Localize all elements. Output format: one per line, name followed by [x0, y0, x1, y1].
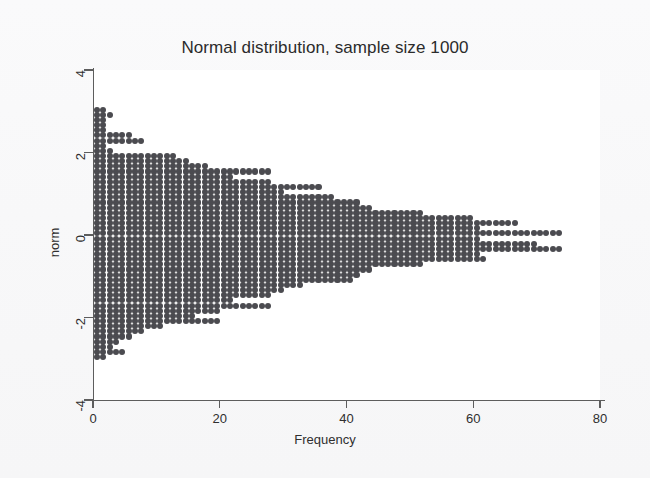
- data-dot: [531, 230, 537, 236]
- data-dot: [240, 292, 246, 298]
- dot-density-series: [93, 70, 600, 400]
- data-dot: [119, 138, 125, 144]
- dot-row: [94, 354, 106, 360]
- data-dot: [138, 138, 144, 144]
- data-dot: [259, 292, 265, 298]
- data-dot: [499, 246, 505, 252]
- data-dot: [246, 168, 252, 174]
- x-tick-label: 40: [339, 411, 353, 426]
- data-dot: [423, 256, 429, 262]
- data-dot: [524, 230, 530, 236]
- data-dot: [265, 292, 271, 298]
- data-dot: [107, 349, 113, 355]
- data-dot: [303, 184, 309, 190]
- x-axis-line: [92, 400, 605, 401]
- data-dot: [467, 256, 473, 262]
- data-dot: [518, 230, 524, 236]
- data-dot: [119, 333, 125, 339]
- data-dot: [176, 318, 182, 324]
- x-axis-title: Frequency: [0, 432, 650, 447]
- data-dot: [537, 230, 543, 236]
- data-dot: [550, 230, 556, 236]
- data-dot: [138, 328, 144, 334]
- data-dot: [259, 303, 265, 309]
- data-dot: [151, 323, 157, 329]
- data-dot: [398, 261, 404, 267]
- data-dot: [493, 220, 499, 226]
- x-tick-label: 60: [466, 411, 480, 426]
- data-dot: [246, 303, 252, 309]
- data-dot: [100, 354, 106, 360]
- data-dot: [259, 168, 265, 174]
- data-dot: [372, 261, 378, 267]
- y-tick-label: 4: [73, 70, 88, 77]
- data-dot: [214, 308, 220, 314]
- data-dot: [512, 220, 518, 226]
- data-dot: [410, 261, 416, 267]
- data-dot: [493, 246, 499, 252]
- data-dot: [240, 168, 246, 174]
- data-dot: [499, 230, 505, 236]
- data-dot: [208, 308, 214, 314]
- data-dot: [284, 282, 290, 288]
- y-tick-label: 2: [73, 153, 88, 160]
- data-dot: [208, 318, 214, 324]
- data-dot: [531, 246, 537, 252]
- data-dot: [379, 261, 385, 267]
- data-dot: [556, 230, 562, 236]
- data-dot: [480, 230, 486, 236]
- y-tick-label: -2: [73, 318, 88, 330]
- data-dot: [512, 230, 518, 236]
- data-dot: [505, 220, 511, 226]
- data-dot: [341, 277, 347, 283]
- data-dot: [221, 303, 227, 309]
- data-dot: [195, 308, 201, 314]
- y-axis-title: norm: [47, 228, 62, 258]
- data-dot: [461, 256, 467, 262]
- data-dot: [328, 277, 334, 283]
- data-dot: [505, 246, 511, 252]
- data-dot: [543, 246, 549, 252]
- data-dot: [303, 277, 309, 283]
- data-dot: [442, 256, 448, 262]
- x-tick-mark: [599, 400, 600, 408]
- data-dot: [265, 168, 271, 174]
- data-dot: [189, 318, 195, 324]
- data-dot: [107, 112, 113, 118]
- data-dot: [113, 138, 119, 144]
- x-tick-label: 20: [213, 411, 227, 426]
- data-dot: [183, 318, 189, 324]
- data-dot: [429, 256, 435, 262]
- data-dot: [132, 138, 138, 144]
- data-dot: [404, 261, 410, 267]
- data-dot: [315, 277, 321, 283]
- data-dot: [113, 339, 119, 345]
- data-dot: [214, 318, 220, 324]
- data-dot: [480, 256, 486, 262]
- x-tick-mark: [92, 400, 93, 408]
- data-dot: [271, 287, 277, 293]
- data-dot: [170, 318, 176, 324]
- data-dot: [309, 184, 315, 190]
- data-dot: [246, 292, 252, 298]
- y-tick-label: 0: [73, 235, 88, 242]
- data-dot: [290, 282, 296, 288]
- data-dot: [126, 333, 132, 339]
- data-dot: [537, 246, 543, 252]
- data-dot: [366, 266, 372, 272]
- data-dot: [334, 277, 340, 283]
- data-dot: [448, 256, 454, 262]
- data-dot: [233, 303, 239, 309]
- data-dot: [94, 354, 100, 360]
- y-tick-label: -4: [73, 400, 88, 412]
- data-dot: [252, 168, 258, 174]
- data-dot: [524, 246, 530, 252]
- x-tick-label: 0: [89, 411, 96, 426]
- data-dot: [297, 184, 303, 190]
- data-dot: [240, 303, 246, 309]
- chart-screenshot: Normal distribution, sample size 1000 42…: [0, 0, 650, 478]
- data-dot: [512, 246, 518, 252]
- data-dot: [486, 230, 492, 236]
- data-dot: [195, 318, 201, 324]
- data-dot: [227, 303, 233, 309]
